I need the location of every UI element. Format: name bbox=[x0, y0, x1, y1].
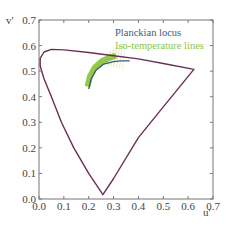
x-tick-label: 0.2 bbox=[82, 200, 96, 212]
y-tick-label: 0.7 bbox=[22, 14, 36, 26]
x-tick-label: 0.5 bbox=[156, 200, 170, 212]
y-tick-label: 0.4 bbox=[22, 91, 36, 103]
y-axis-label: v' bbox=[6, 14, 14, 26]
x-axis-label: u' bbox=[203, 206, 211, 218]
y-tick-label: 0.0 bbox=[22, 193, 36, 205]
x-tick-label: 0.6 bbox=[181, 200, 195, 212]
y-tick-label: 0.6 bbox=[22, 40, 36, 52]
legend-iso-temperature-lines: Iso-temperature lines bbox=[115, 40, 204, 51]
spectral-locus-line bbox=[40, 49, 194, 194]
legend-planckian-locus: Planckian locus bbox=[115, 27, 181, 38]
chromaticity-chart: 0.00.10.20.30.40.50.60.7 0.00.10.20.30.4… bbox=[0, 0, 231, 233]
y-tick-label: 0.3 bbox=[22, 116, 36, 128]
y-tick-label: 0.2 bbox=[22, 142, 36, 154]
y-tick-label: 0.1 bbox=[22, 167, 36, 179]
x-tick-label: 0.4 bbox=[132, 200, 146, 212]
x-tick-label: 0.3 bbox=[107, 200, 121, 212]
y-tick-label: 0.5 bbox=[22, 65, 36, 77]
x-tick-label: 0.1 bbox=[57, 200, 71, 212]
